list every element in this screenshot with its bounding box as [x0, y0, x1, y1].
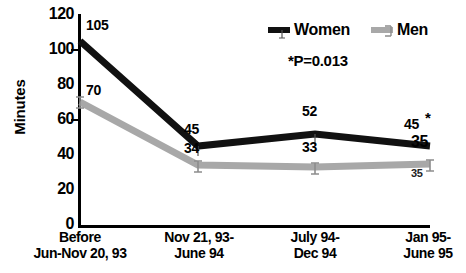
- point-label-women-1: 105: [86, 18, 108, 32]
- p-value-annotation: *P=0.013: [288, 52, 348, 69]
- x-category-4: Jan 95- June 95: [375, 229, 466, 261]
- x-category-1: Before Jun-Nov 20, 93: [20, 229, 140, 261]
- x-category-1-line2: Jun-Nov 20, 93: [20, 245, 140, 261]
- point-label-men-3: 33: [302, 140, 317, 154]
- legend-swatch-men-icon: [371, 21, 397, 39]
- legend-label-women: Women: [294, 21, 350, 38]
- point-label-men-1: 70: [86, 83, 101, 97]
- x-category-4-line2: June 95: [375, 245, 466, 261]
- series-line-men: [80, 102, 430, 167]
- chart-legend: Women Men: [268, 20, 428, 42]
- point-label-men-2: 34: [184, 141, 199, 155]
- point-label-women-2: 45: [184, 122, 199, 136]
- legend-label-men: Men: [397, 21, 428, 38]
- point-label-women-4: 45: [404, 117, 419, 131]
- x-category-3: July 94- Dec 94: [262, 229, 368, 261]
- x-category-3-line2: Dec 94: [262, 245, 368, 261]
- x-category-3-line1: July 94-: [291, 229, 340, 245]
- legend-item-women[interactable]: Women: [268, 20, 350, 39]
- x-category-2-line2: June 94: [142, 245, 256, 261]
- legend-item-men[interactable]: Men: [371, 20, 428, 39]
- chart-figure: Minutes 120 100 80 60 40 20 0 105 45 52 …: [0, 0, 466, 273]
- legend-swatch-women-icon: [268, 21, 294, 39]
- point-label-women-4-extra: 35: [411, 135, 428, 149]
- x-category-2-line1: Nov 21, 93-: [164, 229, 234, 245]
- x-category-2: Nov 21, 93- June 94: [142, 229, 256, 261]
- point-label-women-3: 52: [302, 104, 317, 118]
- x-category-1-line1: Before: [59, 229, 101, 245]
- point-label-men-4: 35: [411, 166, 423, 180]
- significance-star: *: [425, 109, 431, 126]
- x-category-4-line1: Jan 95-: [405, 229, 450, 245]
